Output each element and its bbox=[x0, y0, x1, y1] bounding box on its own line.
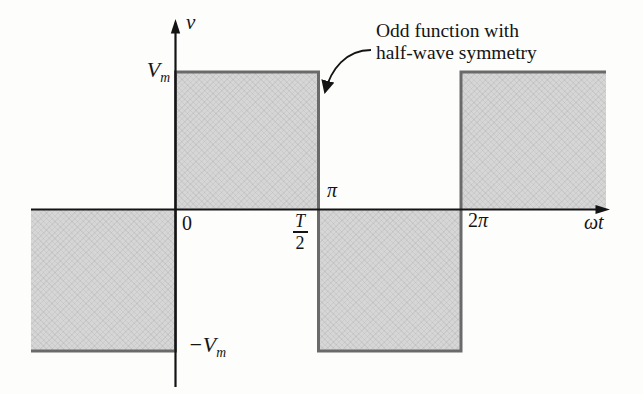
half-period-tick-label: T 2 bbox=[288, 212, 312, 252]
x-axis-label: ωt bbox=[584, 212, 604, 232]
annotation-text: Odd function with half-wave symmetry bbox=[376, 20, 537, 64]
y-axis-label: v bbox=[186, 12, 195, 33]
vm-base: V bbox=[147, 57, 160, 82]
two-pi-symbol: π bbox=[478, 209, 488, 231]
plot-lines-overlay bbox=[0, 0, 643, 394]
annotation-arrow bbox=[325, 50, 371, 92]
two-pi-tick-label: 2π bbox=[468, 210, 488, 230]
vm-label: Vm bbox=[126, 59, 170, 81]
figure-canvas: v Vm −Vm 0 π T 2 2π ωt Odd function with… bbox=[0, 0, 643, 394]
pi-tick-label: π bbox=[327, 180, 337, 200]
negative-vm-subscript: m bbox=[216, 345, 226, 360]
square-wave-outline bbox=[31, 72, 606, 351]
two-pi-number: 2 bbox=[468, 209, 478, 231]
annotation-line-1: Odd function with bbox=[376, 20, 537, 42]
v-axis-arrowhead bbox=[171, 19, 180, 34]
origin-tick-label: 0 bbox=[182, 213, 192, 233]
vm-subscript: m bbox=[160, 70, 170, 85]
annotation-line-2: half-wave symmetry bbox=[376, 42, 537, 64]
negative-vm-base: −V bbox=[188, 332, 216, 357]
negative-vm-label: −Vm bbox=[188, 334, 226, 356]
fraction-numerator: T bbox=[295, 212, 305, 230]
fraction-denominator: 2 bbox=[296, 234, 305, 252]
